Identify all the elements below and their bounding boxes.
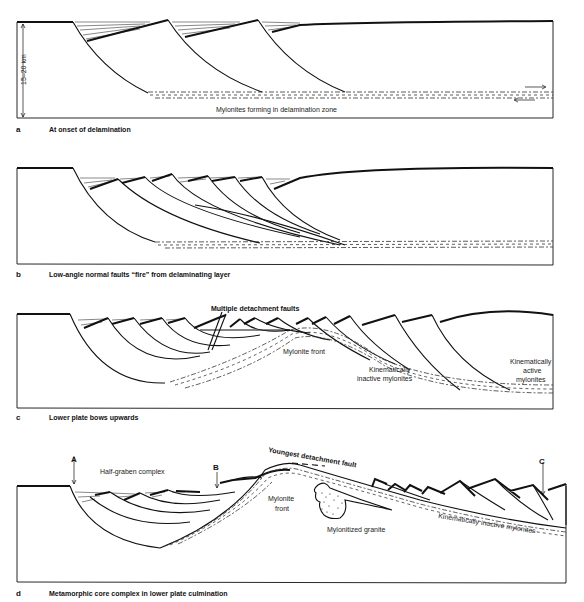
granite-stipple bbox=[321, 492, 342, 514]
panel-b-frame bbox=[17, 168, 553, 265]
shear-arrow-right bbox=[525, 85, 546, 89]
panel-letter: c bbox=[16, 413, 21, 422]
shear-arrow-left bbox=[514, 98, 535, 102]
half-graben-faults bbox=[70, 477, 566, 548]
multiple-detachment-label: Multiple detachment faults bbox=[211, 305, 299, 313]
panel-c: Multiple detachment faults Mylonite fron… bbox=[16, 305, 553, 422]
panel-a-frame bbox=[17, 21, 553, 118]
marker-b-arrow bbox=[215, 472, 219, 488]
mylonite-front-label: Mylonite bbox=[268, 495, 294, 503]
marker-c: C bbox=[539, 457, 545, 466]
mylonite-zone bbox=[165, 468, 566, 546]
panel-caption: Low-angle normal faults “fire” from dela… bbox=[49, 271, 231, 279]
mylonite-front-label: Mylonite front bbox=[283, 348, 325, 356]
panel-a: 15–20 km Mylonites forming in delaminati… bbox=[16, 20, 553, 134]
mylonite-front-label: front bbox=[275, 505, 289, 512]
mylonites-label: Mylonites forming in delamination zone bbox=[216, 106, 337, 114]
panel-b: b Low-angle normal faults “fire” from de… bbox=[16, 168, 553, 279]
panel-letter: b bbox=[16, 270, 21, 279]
marker-a: A bbox=[71, 455, 77, 464]
listric-fault bbox=[73, 22, 148, 93]
half-graben-label: Half-graben complex bbox=[100, 468, 165, 476]
panel-c-frame bbox=[17, 314, 553, 409]
active-label: active bbox=[523, 367, 541, 374]
inactive-label: Kinematically bbox=[369, 366, 411, 374]
tectonic-evolution-diagram: 15–20 km Mylonites forming in delaminati… bbox=[0, 0, 584, 602]
active-label: Kinematically bbox=[510, 358, 552, 366]
panel-caption: Lower plate bows upwards bbox=[49, 414, 139, 422]
scale-label: 15–20 km bbox=[20, 54, 27, 85]
marker-c-arrow bbox=[541, 462, 545, 495]
listric-fault bbox=[258, 20, 345, 92]
lower-plate-culmination bbox=[160, 463, 566, 548]
inactive-label: inactive mylonites bbox=[357, 375, 413, 383]
panel-d: A B C Half-graben complex Youngest detac… bbox=[16, 446, 566, 598]
marker-b: B bbox=[213, 463, 219, 472]
panel-letter: d bbox=[16, 589, 21, 598]
mylonitized-granite-label: Mylonitized granite bbox=[327, 526, 385, 534]
active-label: mylonites bbox=[516, 376, 546, 384]
panel-caption: Metamorphic core complex in lower plate … bbox=[49, 590, 228, 598]
panel-letter: a bbox=[16, 125, 21, 134]
panel-caption: At onset of delamination bbox=[49, 126, 131, 133]
youngest-fault-label: Youngest detachment fault bbox=[268, 446, 358, 470]
